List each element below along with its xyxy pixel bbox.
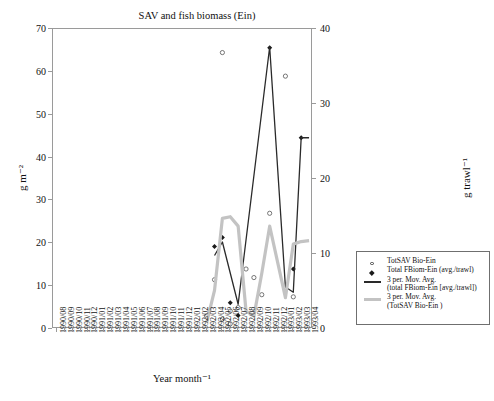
filled-diamond-glyph [369,270,374,275]
x-axis-tick [214,328,215,332]
x-axis-tick [103,328,104,332]
y-axis-left-tick [48,114,52,115]
y-axis-left-tick [48,199,52,200]
y-axis-left-tick-label: 50 [12,108,46,119]
y-axis-left-tick-label: 40 [12,151,46,162]
y-axis-right-tick-label: 0 [320,323,350,334]
chart-figure: SAV and fish biomass (Ein) 0102030405060… [0,0,494,401]
y-axis-right-tick [312,178,316,179]
legend-item: 3 per. Mov. Avg. (total FBiom-Ein [avg./… [357,276,491,293]
x-axis-label: Year month⁻¹ [52,372,312,384]
x-axis-tick [198,328,199,332]
gray-line-icon [357,293,387,304]
x-axis-tick [56,328,57,332]
open-circle-glyph [370,262,373,265]
data-point [283,74,287,78]
line-dark-glyph [364,281,381,283]
x-axis-tick [261,328,262,332]
chart-title: SAV and fish biomass (Ein) [92,10,302,21]
legend-label: 3 per. Mov. Avg. (total FBiom-Ein [avg./… [387,276,477,293]
x-axis-tick [127,328,128,332]
x-axis-tick [174,328,175,332]
legend-label: Total FBiom-Ein (avg./trawl) [387,266,474,275]
y-axis-right-tick [312,103,316,104]
y-axis-left-tick-label: 60 [12,65,46,76]
x-axis-tick [158,328,159,332]
y-axis-left-tick-label: 0 [12,323,46,334]
x-axis-tick [182,328,183,332]
x-axis-tick [206,328,207,332]
x-axis-tick [143,328,144,332]
legend-label: TotSAV Bio-Ein [387,257,436,266]
y-axis-left-tick [48,28,52,29]
series-layer [53,29,313,329]
legend-label: 3 per. Mov. Avg. (TotSAV Bio-Ein ) [387,293,442,310]
x-axis-tick [80,328,81,332]
y-axis-right-tick-label: 10 [320,248,350,259]
y-axis-right-tick-label: 20 [320,173,350,184]
legend-item: 3 per. Mov. Avg. (TotSAV Bio-Ein ) [357,293,491,310]
y-axis-right-tick-label: 30 [320,98,350,109]
x-axis-tick [190,328,191,332]
dark-line-icon [357,276,387,287]
x-axis-tick [245,328,246,332]
x-axis-tick [229,328,230,332]
x-axis-tick [284,328,285,332]
x-axis-tick [300,328,301,332]
y-axis-left-tick-label: 70 [12,23,46,34]
x-axis-tick [95,328,96,332]
x-axis-tick [237,328,238,332]
data-point [212,244,217,249]
x-axis-tick [72,328,73,332]
plot-area [52,28,312,328]
y-axis-right-tick-label: 40 [320,23,350,34]
x-axis-tick [150,328,151,332]
x-axis-tick [292,328,293,332]
y-axis-left-tick-label: 30 [12,194,46,205]
y-axis-right-tick [312,253,316,254]
data-point [268,211,272,215]
y-axis-left-tick [48,157,52,158]
y-axis-left-tick-label: 10 [12,280,46,291]
line-gray-glyph [364,298,381,301]
x-axis-tick [253,328,254,332]
x-axis-tick [111,328,112,332]
y-axis-left-tick-label: 20 [12,237,46,248]
data-point [252,275,256,279]
x-axis-tick [269,328,270,332]
x-axis-tick [221,328,222,332]
data-point [228,300,233,305]
chart-legend: TotSAV Bio-EinTotal FBiom-Ein (avg./traw… [356,251,490,325]
y-axis-left-tick [48,328,52,329]
data-point [220,50,224,54]
y-axis-left-tick [48,71,52,72]
y-axis-left-tick [48,242,52,243]
data-point [260,293,264,297]
y-axis-right-tick [312,28,316,29]
x-axis-tick [64,328,65,332]
y-axis-left-tick [48,285,52,286]
y-axis-left-label: g m⁻² [16,165,29,191]
x-axis-tick [308,328,309,332]
x-axis-tick [277,328,278,332]
x-axis-tick [119,328,120,332]
x-axis-tick [135,328,136,332]
y-axis-right-label: g trawl⁻¹ [460,158,473,198]
x-axis-tick [87,328,88,332]
data-point [244,267,248,271]
data-point [291,295,295,299]
x-axis-tick-label: 1993/04 [311,307,320,333]
x-axis-tick [166,328,167,332]
